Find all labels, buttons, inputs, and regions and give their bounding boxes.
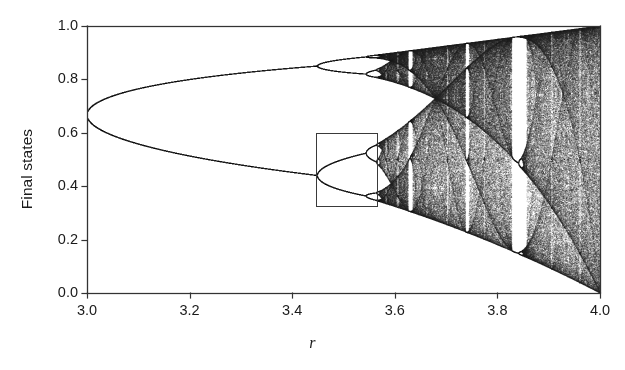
x-tick-label: 3.6 <box>365 302 425 318</box>
y-tick-label: 0.8 <box>18 70 78 86</box>
y-tick-label: 0.6 <box>18 124 78 140</box>
x-tick-label: 4.0 <box>570 302 625 318</box>
y-tick-label: 0.2 <box>18 231 78 247</box>
x-tick-label: 3.2 <box>160 302 220 318</box>
y-tick-label: 1.0 <box>18 17 78 33</box>
x-tick-label: 3.4 <box>262 302 322 318</box>
x-tick-label: 3.8 <box>467 302 527 318</box>
y-tick-label: 0.4 <box>18 177 78 193</box>
bifurcation-figure: Final states r 0.00.20.40.60.81.03.03.23… <box>0 0 625 370</box>
x-axis-label: r <box>0 334 625 352</box>
x-tick-label: 3.0 <box>57 302 117 318</box>
y-tick-label: 0.0 <box>18 284 78 300</box>
